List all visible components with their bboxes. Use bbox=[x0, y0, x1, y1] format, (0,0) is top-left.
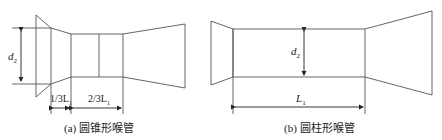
diameter-label-a: d2 bbox=[8, 50, 17, 65]
dim-one-third-label: 1/3L1 bbox=[50, 93, 72, 106]
figure-b-cylindrical-throat bbox=[211, 11, 432, 114]
caption-b: (b) 圆柱形喉管 bbox=[284, 119, 355, 135]
dim-two-thirds-label: 2/3L1 bbox=[88, 93, 110, 106]
length-label-b: L1 bbox=[296, 92, 306, 107]
caption-a: (a) 圆锥形喉管 bbox=[64, 119, 134, 135]
diameter-label-b: d2 bbox=[291, 45, 300, 60]
